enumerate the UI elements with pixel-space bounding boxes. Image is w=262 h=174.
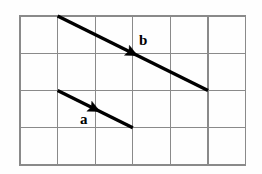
- grid: [20, 16, 246, 165]
- vector-label-b: b: [139, 32, 147, 48]
- figure-canvas: ab: [0, 0, 262, 174]
- vector-grid-figure: ab: [0, 0, 262, 174]
- vector-label-a: a: [80, 111, 88, 127]
